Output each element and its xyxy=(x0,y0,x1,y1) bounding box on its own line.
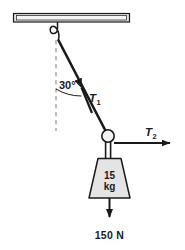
hanging-rope xyxy=(106,142,111,159)
weight-block-mass-unit: kg xyxy=(104,181,116,192)
physics-diagram-canvas: 30° T 1 T 2 15 kg 150 N xyxy=(0,0,185,250)
ceiling-beam-inner xyxy=(17,16,127,21)
ceiling-beam xyxy=(14,14,130,23)
weight-block-mass-value: 15 xyxy=(104,170,116,181)
tension-2-subscript: 2 xyxy=(153,132,157,141)
weight-force-label: 150 N xyxy=(95,229,125,241)
tension-2-label-group: T 2 xyxy=(145,126,157,141)
ceiling-hook xyxy=(50,23,59,41)
angle-label: 30° xyxy=(59,79,76,91)
rope-junction-knot xyxy=(102,130,114,142)
tension-1-subscript: 1 xyxy=(97,98,101,107)
free-body-diagram-svg: 30° T 1 T 2 15 kg 150 N xyxy=(0,0,185,250)
hook-curve xyxy=(50,23,59,41)
